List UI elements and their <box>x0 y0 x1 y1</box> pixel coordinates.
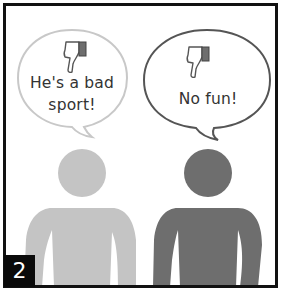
left-bubble-text: He's a bad sport! <box>20 72 124 116</box>
right-bubble-text: No fun! <box>150 88 266 110</box>
right-bubble-line-1: No fun! <box>150 88 266 110</box>
comic-panel: He's a bad sport! No fun! 2 <box>0 0 283 292</box>
left-bubble-line-1: He's a bad <box>20 72 124 94</box>
panel-artwork <box>0 0 283 292</box>
left-bubble-line-2: sport! <box>20 94 124 116</box>
panel-number-badge: 2 <box>4 255 35 287</box>
